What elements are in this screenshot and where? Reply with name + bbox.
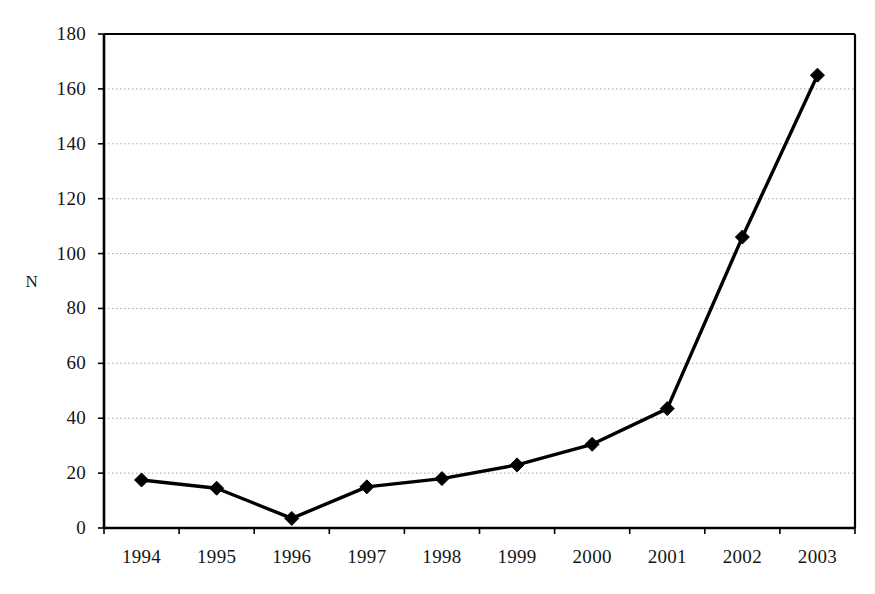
- x-axis-tick-label: 1995: [197, 546, 236, 568]
- data-point-markers: [135, 68, 825, 525]
- y-axis-tick-label: 160: [36, 78, 96, 100]
- y-axis-tick-labels: 020406080100120140160180: [36, 0, 96, 594]
- x-axis-tick-label: 1997: [347, 546, 386, 568]
- y-axis-tick-label: 20: [36, 462, 96, 484]
- y-axis-tick-label: 40: [36, 407, 96, 429]
- plot-frame: [104, 34, 855, 528]
- y-axis-tick-label: 60: [36, 352, 96, 374]
- y-axis-tick-label: 140: [36, 133, 96, 155]
- y-axis-tick-label: 180: [36, 23, 96, 45]
- x-axis-tick-label: 2002: [723, 546, 762, 568]
- data-point-marker: [135, 473, 149, 487]
- x-axis-tick-label: 1994: [122, 546, 161, 568]
- x-axis-tick-label: 1996: [272, 546, 311, 568]
- data-point-marker: [285, 511, 299, 525]
- y-axis-tick-label: 120: [36, 188, 96, 210]
- x-axis-tick-label: 2001: [648, 546, 687, 568]
- data-point-marker: [210, 481, 224, 495]
- data-point-marker: [510, 458, 524, 472]
- line-chart-plot: [0, 0, 875, 594]
- y-axis-tick-label: 100: [36, 243, 96, 265]
- data-line-series: [142, 75, 818, 518]
- data-point-marker: [435, 472, 449, 486]
- data-point-marker: [810, 68, 824, 82]
- x-axis-tick-label: 2000: [573, 546, 612, 568]
- data-point-marker: [585, 437, 599, 451]
- data-point-marker: [735, 230, 749, 244]
- data-line: [142, 75, 818, 518]
- chart-figure: N 020406080100120140160180 1994199519961…: [0, 0, 875, 594]
- x-axis-tick-label: 2003: [798, 546, 837, 568]
- data-point-marker: [660, 402, 674, 416]
- x-axis-tick-label: 1998: [422, 546, 461, 568]
- data-point-marker: [360, 480, 374, 494]
- y-axis-tick-label: 80: [36, 297, 96, 319]
- gridlines: [104, 89, 855, 473]
- x-axis-tick-label: 1999: [497, 546, 536, 568]
- y-axis-tick-label: 0: [36, 517, 96, 539]
